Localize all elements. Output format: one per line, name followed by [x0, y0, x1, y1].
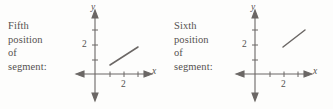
y-tick-label-2: 2 [82, 39, 87, 49]
x-tick-label-2: 2 [281, 79, 286, 89]
x-axis-arrow-right [304, 71, 312, 77]
y-axis-arrow-down [252, 93, 258, 101]
panel-fifth-position: Fifth position of segment: [0, 0, 166, 109]
x-axis-label: x [313, 66, 317, 76]
x-axis-arrow-left [76, 71, 84, 77]
x-axis-arrow-right [144, 71, 152, 77]
plot-fifth-position: x y 2 2 [0, 0, 167, 109]
segment-fifth-position [110, 47, 138, 65]
segment-sixth-position [283, 30, 305, 47]
coordinate-plane-sixth [166, 0, 333, 109]
y-axis-label: y [91, 2, 95, 12]
y-axis-arrow-down [92, 93, 98, 101]
coordinate-plane-fifth [0, 0, 167, 109]
y-axis-label: y [251, 2, 255, 12]
plot-sixth-position: x y 2 2 [166, 0, 333, 109]
figure-container: Fifth position of segment: [0, 0, 333, 109]
x-axis-label: x [152, 66, 156, 76]
x-tick-label-2: 2 [121, 79, 126, 89]
y-tick-label-2: 2 [242, 39, 247, 49]
x-axis-arrow-left [236, 71, 244, 77]
panel-sixth-position: Sixth position of segment: [166, 0, 333, 109]
